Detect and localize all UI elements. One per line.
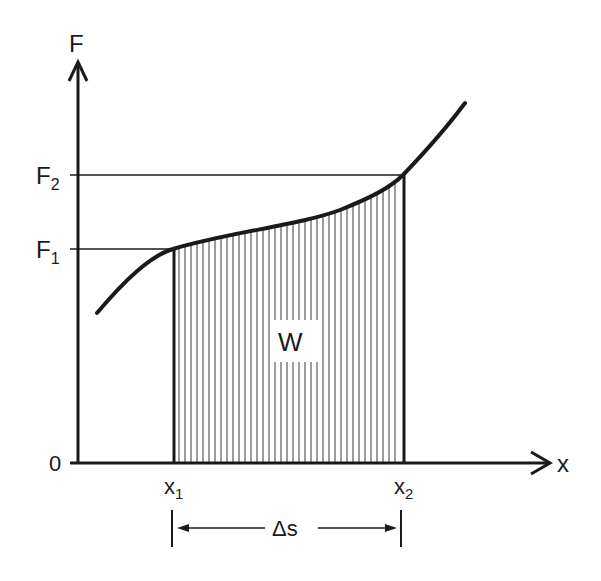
- work-area-label: W: [278, 327, 303, 357]
- f1-label: F1: [36, 236, 60, 267]
- x-axis-label: x: [557, 450, 569, 477]
- x1-label: x1: [164, 474, 183, 502]
- delta-s-right-arrowhead-icon: [385, 524, 397, 532]
- delta-s-label: Δs: [272, 516, 298, 541]
- f2-label: F2: [36, 162, 60, 193]
- work-area-hatching: [179, 170, 395, 463]
- work-diagram: F x 0 F2 F1 x1 x2 W Δs: [0, 0, 601, 581]
- delta-s-left-arrowhead-icon: [177, 524, 189, 532]
- origin-label: 0: [49, 451, 61, 476]
- x2-label: x2: [394, 474, 413, 502]
- y-axis-label: F: [69, 30, 84, 57]
